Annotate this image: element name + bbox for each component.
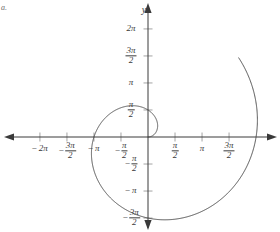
x-tick-label-5: π bbox=[199, 144, 206, 154]
x-tick-label-0: −2π bbox=[31, 144, 49, 154]
y-tick-label-4: −π2 bbox=[124, 154, 137, 173]
y-tick-label-0: 2π bbox=[125, 24, 136, 34]
y-tick-label-3: π2 bbox=[128, 100, 135, 119]
spiral-curve bbox=[91, 58, 257, 220]
x-tick-label-1: −3π2 bbox=[58, 141, 76, 160]
x-tick-label-6: 3π2 bbox=[224, 141, 235, 160]
y-axis-label: y bbox=[142, 4, 146, 15]
x-tick-label-2: −π bbox=[87, 144, 100, 154]
axes bbox=[4, 3, 277, 230]
y-tick-label-6: −3π2 bbox=[122, 208, 140, 227]
y-tick-label-2: π bbox=[128, 78, 135, 88]
x-tick-label-4: π2 bbox=[172, 141, 179, 160]
y-tick-label-5: −π bbox=[124, 186, 137, 196]
y-tick-label-1: 3π2 bbox=[125, 46, 136, 65]
polar-spiral-plot bbox=[0, 0, 280, 232]
